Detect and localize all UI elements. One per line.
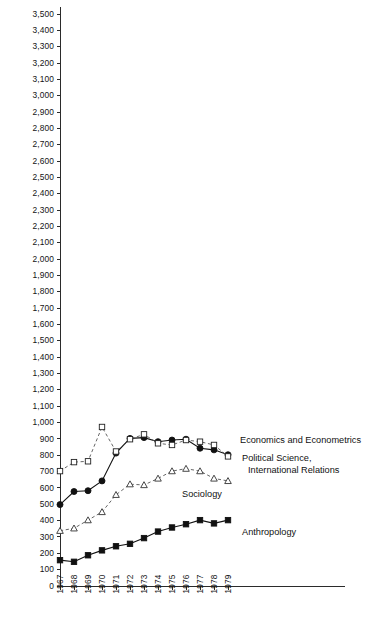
y-tick-label: 2,800 [33,123,55,133]
series-sociology [57,465,232,533]
x-tick-label: 1978 [210,574,219,593]
series-marker [225,454,230,459]
y-tick-label: 1,500 [33,335,55,345]
y-tick-label: 800 [40,450,55,460]
series-annotation-label: Economics and Econometrics [240,435,361,445]
y-tick-label: 3,100 [33,74,55,84]
series-marker [155,441,160,446]
series-marker [85,517,92,523]
y-tick-label: 2,000 [33,254,55,264]
series-marker [183,437,188,442]
x-tick-label: 1967 [56,574,65,593]
series-marker [71,489,77,495]
y-axis: 3,5003,4003,3003,2003,1003,0002,9002,800… [33,7,61,591]
y-tick-label: 500 [40,499,55,509]
series-marker [99,548,104,553]
x-tick-label: 1970 [98,574,107,593]
series-marker [99,424,104,429]
series-marker [99,478,105,484]
y-tick-label: 1,000 [33,417,55,427]
series-annotation-label: Anthropology [242,527,297,537]
y-tick-label: 200 [40,548,55,558]
y-tick-label: 1,100 [33,401,55,411]
series-marker [141,535,146,540]
series-marker [57,502,63,508]
series-marker [71,459,76,464]
series-anthropology [57,517,230,564]
series-marker [57,557,62,562]
y-tick-label: 300 [40,532,55,542]
series-marker [127,481,134,487]
y-tick-label: 700 [40,466,55,476]
x-tick-label: 1977 [196,574,205,593]
y-tick-label: 3,300 [33,41,55,51]
y-tick-label: 1,900 [33,270,55,280]
x-tick-label: 1974 [154,574,163,593]
y-tick-label: 1,300 [33,368,55,378]
series-marker [225,517,230,522]
series-annotation-label: Political Science, [242,453,311,463]
x-axis: 1967196819691970197119721973197419751976… [56,574,345,593]
series-marker [169,525,174,530]
series-marker [141,482,148,488]
series-annotation-label: Sociology [182,489,222,499]
y-tick-label: 3,500 [33,9,55,19]
x-tick-label: 1972 [126,574,135,593]
y-tick-label: 1,600 [33,319,55,329]
series-marker [141,432,146,437]
series-annotation-label: International Relations [248,465,340,475]
y-tick-label: 2,600 [33,156,55,166]
series-marker [183,522,188,527]
x-tick-label: 1968 [70,574,79,593]
series-marker [197,517,202,522]
y-tick-label: 600 [40,483,55,493]
y-tick-label: 1,400 [33,352,55,362]
series-marker [85,459,90,464]
y-tick-label: 0 [49,581,54,591]
series-marker [155,529,160,534]
series-marker [57,468,62,473]
y-tick-label: 2,700 [33,139,55,149]
series-marker [183,465,190,471]
x-tick-label: 1969 [84,574,93,593]
y-tick-label: 400 [40,515,55,525]
series-marker [127,541,132,546]
line-chart: 3,5003,4003,3003,2003,1003,0002,9002,800… [0,0,366,619]
x-tick-label: 1975 [168,574,177,593]
series-marker [169,442,174,447]
y-tick-label: 2,200 [33,221,55,231]
series-marker [85,553,90,558]
series-marker [85,488,91,494]
series-marker [127,437,132,442]
series-marker [113,449,118,454]
series-marker [211,475,218,481]
series-marker [113,544,118,549]
x-tick-label: 1971 [112,574,121,593]
series-marker [211,442,216,447]
y-tick-label: 2,500 [33,172,55,182]
x-tick-label: 1976 [182,574,191,593]
y-tick-label: 1,700 [33,303,55,313]
series-marker [197,439,202,444]
x-tick-label: 1973 [140,574,149,593]
y-tick-label: 100 [40,564,55,574]
y-tick-label: 3,200 [33,58,55,68]
y-tick-label: 2,100 [33,237,55,247]
x-tick-label: 1979 [224,574,233,593]
series-marker [71,559,76,564]
series-marker [211,521,216,526]
y-tick-label: 1,200 [33,384,55,394]
series-marker [99,509,106,515]
y-tick-label: 2,300 [33,205,55,215]
y-tick-label: 900 [40,434,55,444]
y-tick-label: 3,000 [33,90,55,100]
series-marker [71,525,78,531]
y-tick-label: 2,400 [33,188,55,198]
y-tick-label: 1,800 [33,286,55,296]
y-tick-label: 2,900 [33,107,55,117]
series-marker [113,491,120,497]
chart-container: 3,5003,4003,3003,2003,1003,0002,9002,800… [0,0,366,619]
series-marker [155,475,162,481]
y-tick-label: 3,400 [33,25,55,35]
series-marker [197,445,203,451]
